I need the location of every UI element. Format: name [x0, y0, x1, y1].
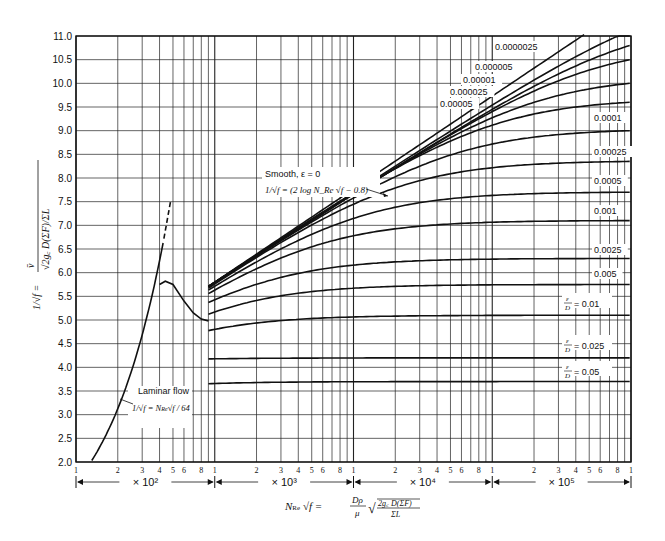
curve-label: 0.0001 [594, 113, 622, 123]
decade-markers: × 10²× 10³× 10⁴× 10⁵ [76, 476, 631, 488]
y-tick-label: 6.0 [58, 267, 72, 278]
x-tick-label: 5 [448, 466, 452, 475]
svg-text:ΣL: ΣL [390, 510, 401, 519]
svg-text:√2g꜀ D(ΣF)/ΣL: √2g꜀ D(ΣF)/ΣL [40, 208, 52, 270]
svg-text:D: D [564, 304, 570, 312]
friction-curve [208, 315, 629, 330]
x-tick-label: 1 [352, 466, 356, 475]
x-axis-ticks: 12345681234568123456812345681 [74, 466, 633, 475]
y-tick-label: 10.0 [53, 78, 73, 89]
svg-text:μ: μ [354, 508, 360, 518]
decade-label: × 10³ [271, 476, 297, 488]
y-axis-label: 1/√f = v̄ √2g꜀ D(ΣF)/ΣL [25, 160, 52, 310]
x-tick-label: 2 [393, 466, 397, 475]
y-tick-label: 8.0 [58, 173, 72, 184]
curve-label: 0.000025 [450, 87, 488, 97]
svg-text:1/√f = (2 log N_Re √f − 0.8): 1/√f = (2 log N_Re √f − 0.8) [265, 185, 368, 195]
y-tick-label: 9.0 [58, 125, 72, 136]
y-tick-label: 11.0 [53, 31, 72, 42]
friction-curve [208, 192, 629, 290]
x-tick-label: 4 [435, 466, 439, 475]
y-tick-label: 7.5 [58, 196, 72, 207]
y-tick-label: 8.5 [58, 149, 72, 160]
y-tick-label: 3.5 [58, 386, 72, 397]
laminar-annotation: Laminar flow 1/√f = NRe√f / 64 [120, 386, 192, 428]
x-tick-label: 1 [74, 466, 78, 475]
curve-label: = 0.025 [574, 341, 604, 351]
svg-text:v̄: v̄ [25, 263, 36, 268]
y-tick-label: 10.5 [53, 54, 73, 65]
svg-text:2g꜀ D(ΣF): 2g꜀ D(ΣF) [378, 499, 412, 508]
svg-text:D: D [564, 346, 570, 354]
curve-label: 0.0005 [594, 176, 622, 186]
curve-label: = 0.05 [574, 367, 599, 377]
x-tick-label: 8 [199, 466, 203, 475]
y-tick-label: 2.5 [58, 433, 72, 444]
svg-text:√: √ [368, 501, 376, 516]
curve-label: 0.00005 [440, 99, 473, 109]
x-tick-label: 1 [629, 466, 633, 475]
decade-label: × 10⁴ [410, 476, 437, 488]
x-tick-label: 8 [477, 466, 481, 475]
x-tick-label: 5 [171, 466, 175, 475]
friction-curve [208, 382, 629, 384]
svg-text:NRe √f =: NRe √f = [284, 500, 322, 512]
curve-labels: 0.00000250.0000050.000010.0000250.000050… [438, 41, 633, 380]
x-tick-label: 2 [255, 466, 259, 475]
x-tick-label: 6 [321, 466, 325, 475]
svg-text:Smooth, ε = 0: Smooth, ε = 0 [265, 169, 320, 179]
x-tick-label: 5 [310, 466, 314, 475]
svg-text:1/√f = NRe√f / 64: 1/√f = NRe√f / 64 [132, 403, 191, 413]
x-tick-label: 3 [140, 466, 144, 475]
x-tick-label: 4 [158, 466, 162, 475]
x-tick-label: 5 [587, 466, 591, 475]
curve-label: = 0.01 [574, 299, 599, 309]
x-tick-label: 8 [616, 466, 620, 475]
x-tick-label: 6 [598, 466, 602, 475]
y-tick-label: 5.0 [58, 315, 72, 326]
smooth-annotation: Smooth, ε = 0 1/√f = (2 log N_Re √f − 0.… [262, 167, 388, 197]
svg-text:Dρ: Dρ [351, 495, 363, 505]
x-tick-label: 1 [490, 466, 494, 475]
friction-factor-chart: 2.02.53.03.54.04.55.05.56.06.57.07.58.08… [0, 0, 665, 541]
x-tick-label: 1 [213, 466, 217, 475]
curve-label: 0.00025 [594, 147, 627, 157]
y-tick-label: 4.0 [58, 362, 72, 373]
x-tick-label: 2 [532, 466, 536, 475]
x-tick-label: 6 [459, 466, 463, 475]
y-tick-label: 7.0 [58, 220, 72, 231]
decade-label: × 10⁵ [548, 476, 574, 488]
x-tick-label: 3 [556, 466, 560, 475]
x-axis-label: NRe √f = Dρ μ √ 2g꜀ D(ΣF) ΣL [284, 495, 420, 519]
x-tick-label: 4 [296, 466, 300, 475]
curve-label: 0.000005 [475, 62, 513, 72]
curve-label: 0.0000025 [495, 42, 538, 52]
curve-label: 0.00001 [463, 75, 496, 85]
y-tick-label: 4.5 [58, 338, 72, 349]
curve-label: 0.0025 [594, 245, 622, 255]
x-tick-label: 3 [418, 466, 422, 475]
svg-text:ε: ε [566, 337, 569, 345]
curve-label: 0.001 [594, 206, 617, 216]
y-tick-label: 6.5 [58, 244, 72, 255]
x-tick-label: 6 [182, 466, 186, 475]
x-tick-label: 2 [116, 466, 120, 475]
friction-curve [208, 358, 629, 359]
svg-text:ε: ε [566, 295, 569, 303]
svg-text:Laminar flow: Laminar flow [138, 386, 190, 396]
y-tick-label: 3.0 [58, 409, 72, 420]
friction-curve [208, 221, 629, 294]
y-tick-label: 5.5 [58, 291, 72, 302]
x-tick-label: 3 [279, 466, 283, 475]
decade-label: × 10² [133, 476, 159, 488]
x-tick-label: 4 [574, 466, 578, 475]
y-tick-label: 9.5 [58, 102, 72, 113]
curve-label: 0.005 [594, 269, 617, 279]
x-tick-label: 8 [338, 466, 342, 475]
svg-text:ε: ε [566, 363, 569, 371]
svg-text:1/√f =: 1/√f = [31, 285, 42, 310]
y-axis-ticks: 2.02.53.03.54.04.55.05.56.06.57.07.58.08… [53, 31, 73, 468]
y-tick-label: 2.0 [58, 457, 72, 468]
svg-text:D: D [564, 372, 570, 380]
